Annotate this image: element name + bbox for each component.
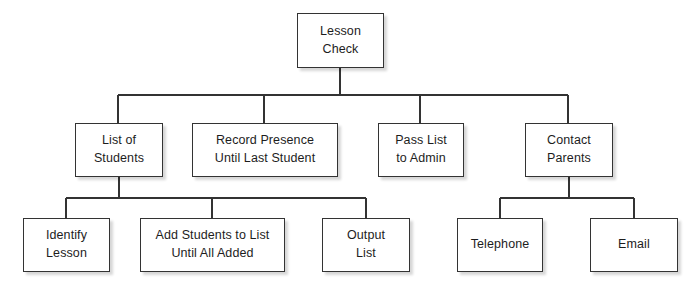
node-record-presence[interactable]: Record Presence Until Last Student	[192, 123, 338, 177]
node-output-list[interactable]: Output List	[322, 218, 410, 272]
node-identify-lesson[interactable]: Identify Lesson	[23, 218, 110, 272]
node-telephone[interactable]: Telephone	[457, 218, 543, 272]
node-email[interactable]: Email	[590, 218, 678, 272]
node-contact-parents[interactable]: Contact Parents	[525, 123, 613, 177]
node-list-of-students[interactable]: List of Students	[75, 123, 163, 177]
diagram-canvas: Lesson CheckList of StudentsRecord Prese…	[0, 0, 696, 289]
node-add-students[interactable]: Add Students to List Until All Added	[140, 218, 285, 272]
node-lesson-check[interactable]: Lesson Check	[297, 13, 384, 68]
node-pass-list[interactable]: Pass List to Admin	[378, 123, 464, 177]
